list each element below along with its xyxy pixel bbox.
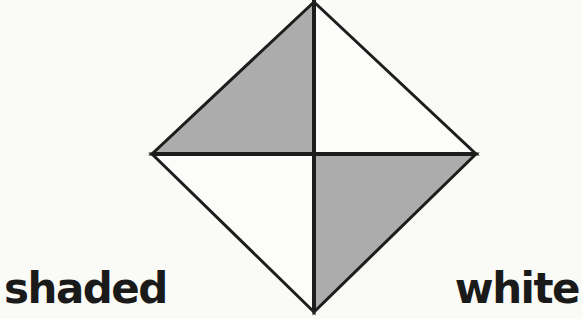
white-label: white <box>455 268 579 310</box>
shaded-label: shaded <box>4 268 167 310</box>
diamond-figure: shaded white <box>0 0 582 319</box>
